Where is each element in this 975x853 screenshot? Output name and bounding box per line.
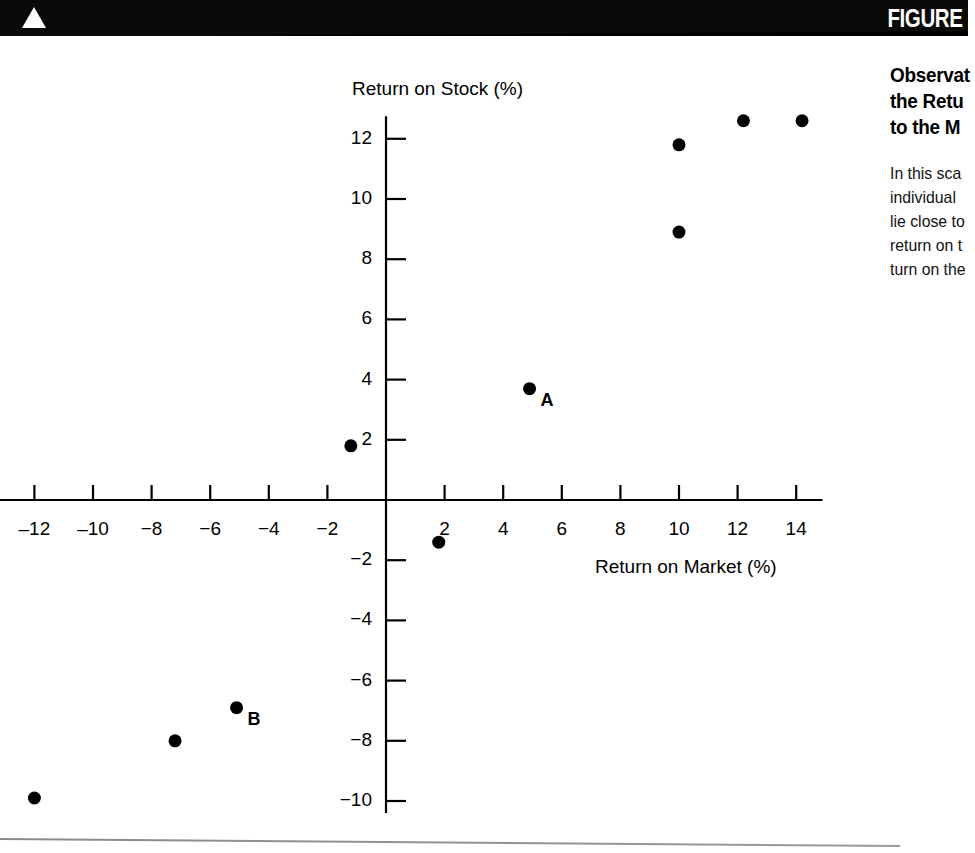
caption-body-line: lie close to	[890, 210, 975, 234]
y-tick-label: −4	[312, 608, 372, 630]
y-tick-label: 6	[312, 307, 372, 329]
x-tick-label: ‒10	[67, 518, 119, 540]
y-tick-label: 8	[312, 247, 372, 269]
x-tick-label: 10	[653, 518, 705, 540]
y-tick-label: 4	[312, 368, 372, 390]
caption-title-line: Observat	[890, 62, 975, 88]
data-point-label-b: B	[248, 709, 261, 730]
y-tick-label: 10	[312, 187, 372, 209]
y-axis-title: Return on Stock (%)	[352, 78, 523, 100]
y-tick-label: −8	[312, 729, 372, 751]
page-bottom-rule	[0, 838, 900, 847]
x-tick-label: 12	[712, 518, 764, 540]
x-tick-label: −8	[126, 518, 178, 540]
x-tick-label: 2	[419, 518, 471, 540]
caption-body-line: turn on the	[890, 258, 975, 282]
x-tick-label: ‒12	[8, 518, 60, 540]
x-axis-title: Return on Market (%)	[595, 556, 777, 578]
caption-body-line: return on t	[890, 234, 975, 258]
figure-caption: Observat the Retu to the M In this sca i…	[890, 62, 975, 282]
triangle-up-icon	[22, 7, 46, 28]
data-point-label-a: A	[541, 390, 554, 411]
x-tick-label: 6	[536, 518, 588, 540]
caption-body-line: individual	[890, 186, 975, 210]
x-tick-label: −6	[184, 518, 236, 540]
figure-banner: FIGURE	[0, 0, 968, 36]
caption-title-line: the Retu	[890, 88, 975, 114]
caption-title-line: to the M	[890, 114, 975, 140]
x-tick-label: 4	[477, 518, 529, 540]
y-tick-label: −2	[312, 548, 372, 570]
y-tick-label: −10	[312, 789, 372, 811]
x-tick-label: 14	[770, 518, 822, 540]
y-tick-label: 12	[312, 127, 372, 149]
caption-body-line: In this sca	[890, 162, 975, 186]
x-tick-label: −4	[243, 518, 295, 540]
x-tick-label: 8	[594, 518, 646, 540]
caption-body: In this sca individual lie close to retu…	[890, 162, 975, 282]
scatter-plot: Return on Stock (%) Return on Market (%)…	[0, 36, 890, 826]
y-tick-label: −6	[312, 669, 372, 691]
caption-title: Observat the Retu to the M	[890, 62, 975, 140]
y-tick-label: 2	[312, 428, 372, 450]
figure-label: FIGURE	[887, 4, 962, 33]
plot-canvas	[0, 36, 890, 826]
x-tick-label: −2	[301, 518, 353, 540]
banner-background	[0, 0, 968, 36]
